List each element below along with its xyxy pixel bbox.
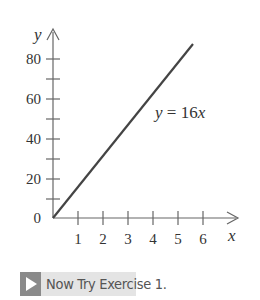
y-tick-label-20: 20 xyxy=(26,171,41,187)
x-axis-label: x xyxy=(227,226,236,245)
x-tick-label-5: 5 xyxy=(174,231,182,247)
y-tick-label-40: 40 xyxy=(26,131,41,147)
line-chart: 80 60 40 20 0 1 2 3 4 5 6 y x y = 16x xyxy=(0,0,260,270)
equation-label: y = 16x xyxy=(153,103,206,122)
x-tick-label-6: 6 xyxy=(199,231,207,247)
y-tick-label-60: 60 xyxy=(26,91,41,107)
now-try-exercise-banner[interactable]: Now Try Exercise 1. xyxy=(20,272,136,296)
series-line-y-16x xyxy=(53,44,193,218)
play-arrow-icon xyxy=(20,272,41,296)
y-tick-label-80: 80 xyxy=(26,51,41,67)
x-tick-label-2: 2 xyxy=(99,231,107,247)
y-axis-label: y xyxy=(32,25,42,44)
x-tick-label-1: 1 xyxy=(74,231,82,247)
x-tick-label-4: 4 xyxy=(149,231,157,247)
banner-text: Now Try Exercise 1. xyxy=(46,276,167,292)
x-tick-label-3: 3 xyxy=(124,231,132,247)
origin-label: 0 xyxy=(34,210,42,226)
